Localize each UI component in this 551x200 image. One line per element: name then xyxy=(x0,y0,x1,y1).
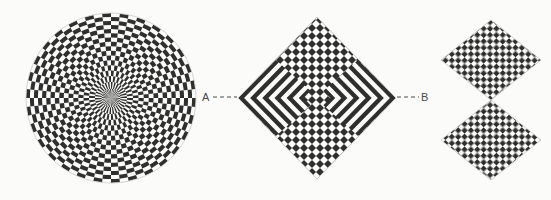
label-b: B xyxy=(421,92,428,103)
disc-cell xyxy=(64,88,69,93)
disc-cell xyxy=(103,175,111,179)
disc-cell xyxy=(55,86,60,92)
disc-cell xyxy=(144,94,149,98)
disc-cell xyxy=(78,95,83,98)
disc-cell xyxy=(171,91,176,98)
disc-cell xyxy=(104,158,111,163)
disc-cell xyxy=(162,92,167,98)
disc-cell xyxy=(101,51,106,56)
disc-cell xyxy=(59,93,64,98)
disc-cell xyxy=(99,42,105,47)
disc-cell xyxy=(38,98,42,106)
disc-cell xyxy=(105,37,111,42)
disc-cell xyxy=(153,102,158,107)
disc-cell xyxy=(180,90,184,98)
disc-cell xyxy=(175,98,180,105)
disc-cell xyxy=(106,140,111,145)
disc-cell xyxy=(111,125,114,130)
disc-cell xyxy=(188,90,192,98)
disc-cell xyxy=(111,60,115,65)
disc-cell xyxy=(162,103,167,109)
disc-cell xyxy=(111,42,117,47)
disc-cell xyxy=(68,94,73,98)
disc-cell xyxy=(158,98,163,103)
disc-cell xyxy=(73,98,78,102)
disc-cell xyxy=(167,98,172,104)
disc-cell xyxy=(157,87,162,93)
disc-cell xyxy=(42,91,47,98)
disc-cell xyxy=(55,98,60,104)
disc-cell xyxy=(108,65,111,70)
disc-cell xyxy=(111,162,118,167)
disc-cell xyxy=(104,29,111,34)
disc-cell xyxy=(50,92,55,98)
disc-cell xyxy=(115,140,120,145)
disc-cell xyxy=(116,149,122,154)
disc-cell xyxy=(46,98,51,105)
disc-cell xyxy=(111,51,116,56)
disc-cell xyxy=(30,98,34,106)
label-a: A xyxy=(202,92,209,103)
disc-cell xyxy=(100,144,106,149)
disc-cell xyxy=(184,98,188,106)
disc-cell xyxy=(149,98,154,102)
disc-cell xyxy=(105,149,111,154)
disc-cell xyxy=(111,17,119,21)
disc-cell xyxy=(138,98,143,101)
disc-cell xyxy=(107,55,111,60)
disc-cell xyxy=(111,136,115,141)
disc-cell xyxy=(107,131,111,136)
disc-cell xyxy=(111,171,119,175)
disc-cell xyxy=(60,103,65,109)
disc-cell xyxy=(64,98,69,103)
polar-checkerboard-disc xyxy=(26,13,196,183)
disc-cell xyxy=(111,33,118,38)
disc-cell xyxy=(111,145,116,150)
disc-cell xyxy=(116,47,122,52)
disc-cell xyxy=(103,21,111,25)
geometric-illusion-figure xyxy=(0,0,551,200)
disc-cell xyxy=(34,90,38,98)
disc-cell xyxy=(111,25,119,29)
disc-cell xyxy=(106,46,111,51)
disc-cell xyxy=(103,167,111,171)
figure-canvas: A B xyxy=(0,0,551,200)
disc-cell xyxy=(111,154,117,159)
disc-cell xyxy=(153,93,158,98)
